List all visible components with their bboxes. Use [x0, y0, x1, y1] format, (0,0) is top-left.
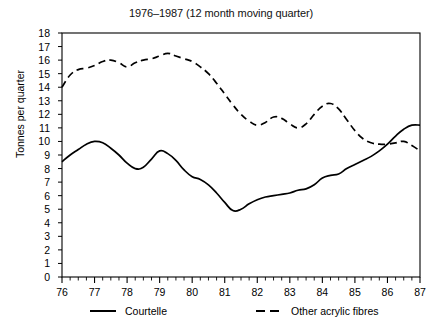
- series-line-courtelle: [62, 125, 420, 211]
- legend-swatch-solid-icon: [90, 306, 116, 316]
- chart-figure: 1976–1987 (12 month moving quarter) Tonn…: [0, 0, 442, 331]
- plot-frame: [62, 33, 420, 277]
- legend-swatch-dashed-icon: [256, 306, 282, 316]
- legend-entry-other-acrylic-fibres: Other acrylic fibres: [256, 302, 379, 320]
- axes: [62, 33, 420, 277]
- chart-legend: Courtelle Other acrylic fibres: [62, 302, 420, 322]
- legend-entry-courtelle: Courtelle: [90, 302, 167, 320]
- plot-area: [0, 0, 442, 331]
- legend-label-courtelle: Courtelle: [125, 305, 167, 317]
- data-series-group: [62, 53, 420, 211]
- x-axis-ticks: [62, 277, 420, 283]
- legend-label-other-acrylic-fibres: Other acrylic fibres: [291, 305, 379, 317]
- series-line-other-acrylic-fibres: [62, 53, 420, 151]
- y-axis-ticks: [58, 33, 62, 277]
